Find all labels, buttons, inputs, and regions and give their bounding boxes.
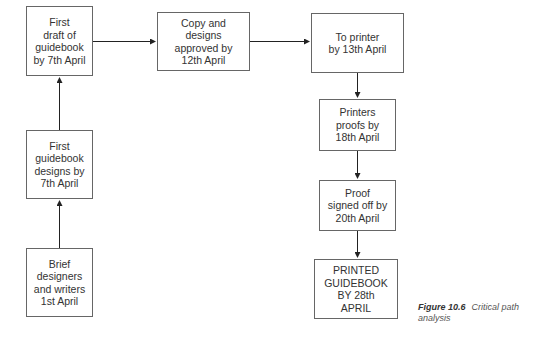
node-copy-approved: Copy and designs approved by 12th April: [157, 12, 250, 71]
node-label: Brief designers and writers 1st April: [34, 258, 85, 308]
node-label: Printers proofs by 18th April: [336, 106, 380, 144]
node-brief: Brief designers and writers 1st April: [26, 248, 93, 317]
node-label: Copy and designs approved by 12th April: [175, 17, 233, 67]
node-first-draft: First draft of guidebook by 7th April: [26, 6, 93, 76]
node-proof-signed-off: Proof signed off by 20th April: [319, 180, 396, 231]
node-label: First draft of guidebook by 7th April: [34, 16, 86, 66]
node-to-printer: To printer by 13th April: [311, 13, 404, 73]
figure-number: Figure 10.6: [418, 302, 466, 312]
node-label: To printer by 13th April: [329, 31, 387, 56]
node-label: First guidebook designs by 7th April: [34, 140, 84, 190]
node-printers-proofs: Printers proofs by 18th April: [319, 99, 396, 151]
node-label: PRINTED GUIDEBOOK BY 28th APRIL: [324, 264, 388, 314]
node-label: Proof signed off by 20th April: [328, 187, 387, 225]
figure-caption: Figure 10.6Critical path analysis: [418, 302, 550, 324]
node-printed-guidebook: PRINTED GUIDEBOOK BY 28th APRIL: [314, 259, 398, 319]
node-first-designs: First guidebook designs by 7th April: [26, 130, 93, 199]
